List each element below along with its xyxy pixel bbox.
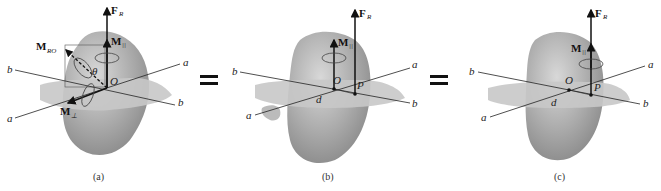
svg-text:b: b bbox=[7, 63, 13, 75]
moment-perp-label: M bbox=[60, 105, 71, 117]
origin-label: O bbox=[110, 75, 118, 87]
caption-a: (a) bbox=[93, 171, 104, 183]
svg-text:b: b bbox=[178, 96, 184, 108]
svg-text:b: b bbox=[232, 65, 238, 77]
svg-text:b: b bbox=[643, 97, 649, 109]
svg-text:a: a bbox=[183, 56, 189, 68]
point-label: P bbox=[593, 81, 601, 93]
force-label: F bbox=[359, 7, 366, 19]
equals-sign-1 bbox=[200, 75, 218, 85]
svg-text:||: || bbox=[582, 48, 586, 56]
panel-c: F R M || O P d a a b b (c) bbox=[469, 7, 654, 183]
svg-text:R: R bbox=[366, 13, 372, 21]
panel-a: F R M || M RO M ⊥ θ O a a b b (a) bbox=[7, 4, 189, 183]
distance-label: d bbox=[551, 96, 557, 108]
origin-label: O bbox=[565, 74, 573, 86]
caption-c: (c) bbox=[554, 171, 565, 183]
equals-sign-2 bbox=[430, 75, 448, 85]
svg-text:RO: RO bbox=[46, 47, 56, 55]
force-label: F bbox=[595, 7, 602, 19]
caption-b: (b) bbox=[322, 171, 334, 183]
moment-parallel-label: M bbox=[111, 35, 122, 47]
distance-label: d bbox=[316, 93, 322, 105]
svg-text:R: R bbox=[118, 10, 124, 18]
svg-text:a: a bbox=[246, 109, 252, 121]
svg-text:a: a bbox=[7, 112, 13, 124]
body-fragment bbox=[262, 105, 281, 120]
point-label: P bbox=[356, 79, 364, 91]
svg-text:b: b bbox=[469, 65, 475, 77]
angle-label: θ bbox=[92, 65, 98, 77]
panel-b: F R M || O P d a a b b (b) bbox=[232, 7, 418, 183]
svg-text:||: || bbox=[349, 42, 353, 50]
moment-parallel-label: M bbox=[571, 42, 582, 54]
svg-text:⊥: ⊥ bbox=[71, 112, 77, 120]
wrench-resultant-diagram: F R M || M RO M ⊥ θ O a a b b (a) F R M … bbox=[0, 0, 661, 191]
svg-text:b: b bbox=[412, 97, 418, 109]
svg-text:R: R bbox=[602, 13, 608, 21]
svg-text:a: a bbox=[648, 58, 654, 70]
section-plane bbox=[255, 80, 405, 108]
moment-parallel-label: M bbox=[338, 36, 349, 48]
svg-text:||: || bbox=[122, 41, 126, 49]
origin-label: O bbox=[333, 74, 341, 86]
section-plane bbox=[488, 82, 630, 108]
svg-text:a: a bbox=[412, 58, 418, 70]
svg-text:a: a bbox=[481, 111, 487, 123]
force-label: F bbox=[111, 4, 118, 16]
moment-total-label: M bbox=[36, 40, 47, 52]
